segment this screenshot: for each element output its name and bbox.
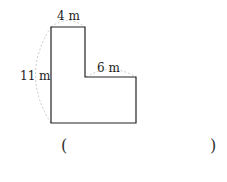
top-width-label: 4 m <box>57 10 80 22</box>
answer-blank[interactable] <box>72 138 208 156</box>
answer-close-paren: ) <box>210 138 216 154</box>
answer-open-paren: ( <box>61 138 67 154</box>
step-width-label: 6 m <box>97 62 120 74</box>
height-label: 11 m <box>20 70 50 82</box>
l-shape <box>51 27 136 123</box>
